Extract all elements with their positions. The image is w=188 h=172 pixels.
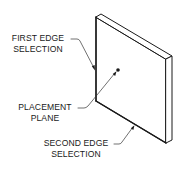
first-edge-leader xyxy=(71,39,94,68)
second-edge-leader xyxy=(114,127,133,144)
placement-point-icon xyxy=(116,68,120,72)
second-edge-selection-label: SECOND EDGE SELECTION xyxy=(38,138,114,159)
placement-plane-label-line2: PLANE xyxy=(14,113,76,124)
first-edge-selection-label: FIRST EDGE SELECTION xyxy=(7,33,69,54)
placement-plane-label-line1: PLACEMENT xyxy=(14,102,76,113)
placement-plane-label: PLACEMENT PLANE xyxy=(14,102,76,123)
second-edge-label-line2: SELECTION xyxy=(38,149,114,160)
first-edge-arrow-icon xyxy=(92,65,95,71)
second-edge-label-line1: SECOND EDGE xyxy=(38,138,114,149)
first-edge-label-line2: SELECTION xyxy=(7,44,69,55)
first-edge-label-line1: FIRST EDGE xyxy=(7,33,69,44)
plate-side-face xyxy=(166,56,172,143)
